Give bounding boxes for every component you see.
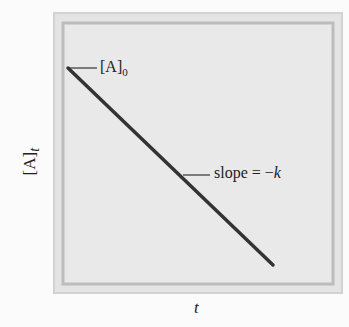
- y-axis-label: [A]t: [20, 148, 43, 176]
- annotation-initial-concentration: [A]0: [100, 58, 128, 78]
- chart-plot: [0, 0, 349, 327]
- x-axis-label: t: [194, 298, 199, 318]
- annotation-slope: slope = −k: [214, 164, 281, 182]
